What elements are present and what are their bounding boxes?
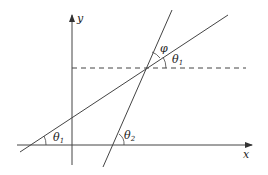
phi-label: φ xyxy=(160,42,168,55)
arc-theta1-bottom xyxy=(44,136,46,145)
angle-diagram: y x θ1 θ2 θ1 φ xyxy=(0,0,268,175)
y-axis-label: y xyxy=(76,12,84,25)
arc-phi xyxy=(152,52,160,58)
theta1-bottom-label: θ1 xyxy=(53,131,64,145)
theta2-bottom-label: θ2 xyxy=(124,129,136,143)
arc-theta1-top xyxy=(163,57,166,68)
line-theta2 xyxy=(103,10,172,167)
theta1-top-label: θ1 xyxy=(172,53,183,67)
x-axis-label: x xyxy=(243,148,250,161)
